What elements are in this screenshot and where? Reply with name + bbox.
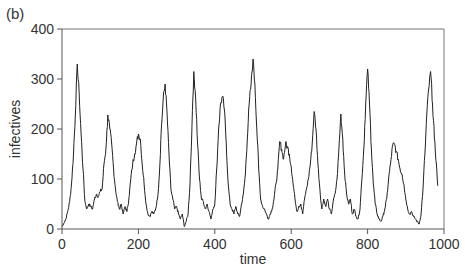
y-axis: 0100200300400: [31, 21, 62, 237]
y-tick-label: 200: [31, 121, 55, 137]
y-tick-label: 300: [31, 71, 55, 87]
x-axis: 02004006008001000: [58, 229, 460, 252]
x-tick-label: 600: [280, 236, 304, 252]
x-tick-label: 200: [127, 236, 151, 252]
y-tick-label: 0: [46, 221, 54, 237]
x-tick-label: 1000: [428, 236, 459, 252]
y-tick-label: 100: [31, 171, 55, 187]
chart: (b) 0100200300400 02004006008001000 time…: [0, 0, 465, 269]
x-tick-label: 800: [356, 236, 380, 252]
x-axis-title: time: [240, 251, 267, 267]
y-axis-title: infectives: [7, 100, 23, 158]
infectives-series-line: [62, 59, 438, 227]
y-tick-label: 400: [31, 21, 55, 37]
panel-label: (b): [6, 5, 24, 22]
x-tick-label: 0: [58, 236, 66, 252]
x-tick-label: 400: [203, 236, 227, 252]
